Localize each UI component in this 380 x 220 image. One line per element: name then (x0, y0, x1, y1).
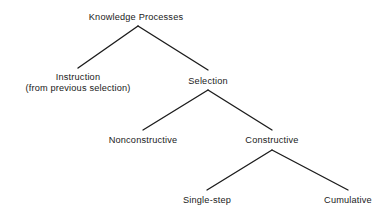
tree-node-instruction: Instruction(from previous selection) (25, 72, 130, 94)
tree-node-knowledge-processes-line-1: Knowledge Processes (89, 12, 183, 23)
tree-edge-layer (0, 0, 380, 220)
tree-node-instruction-line-1: Instruction (25, 72, 130, 83)
tree-node-cumulative-line-1: Cumulative (324, 195, 372, 206)
tree-node-nonconstructive-line-1: Nonconstructive (109, 135, 178, 146)
tree-node-cumulative: Cumulative (324, 195, 372, 206)
tree-node-instruction-line-2: (from previous selection) (25, 83, 130, 94)
tree-edge-knowledge-processes-to-instruction (78, 26, 138, 68)
tree-node-single-step-line-1: Single-step (183, 195, 231, 206)
tree-edges (78, 26, 348, 190)
knowledge-processes-tree-diagram: Knowledge ProcessesInstruction(from prev… (0, 0, 380, 220)
tree-node-nonconstructive: Nonconstructive (109, 135, 178, 146)
tree-node-constructive: Constructive (245, 135, 298, 146)
tree-node-selection: Selection (188, 76, 227, 87)
tree-edge-selection-to-constructive (208, 90, 272, 130)
tree-node-knowledge-processes: Knowledge Processes (89, 12, 183, 23)
tree-node-constructive-line-1: Constructive (245, 135, 298, 146)
tree-edge-constructive-to-cumulative (272, 150, 348, 190)
tree-edge-constructive-to-single-step (207, 150, 272, 190)
tree-node-single-step: Single-step (183, 195, 231, 206)
tree-edge-selection-to-nonconstructive (143, 90, 208, 130)
tree-node-selection-line-1: Selection (188, 76, 227, 87)
tree-edge-knowledge-processes-to-selection (138, 26, 208, 70)
